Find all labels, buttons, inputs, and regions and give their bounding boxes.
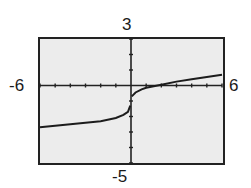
graph-screen [0, 0, 251, 188]
